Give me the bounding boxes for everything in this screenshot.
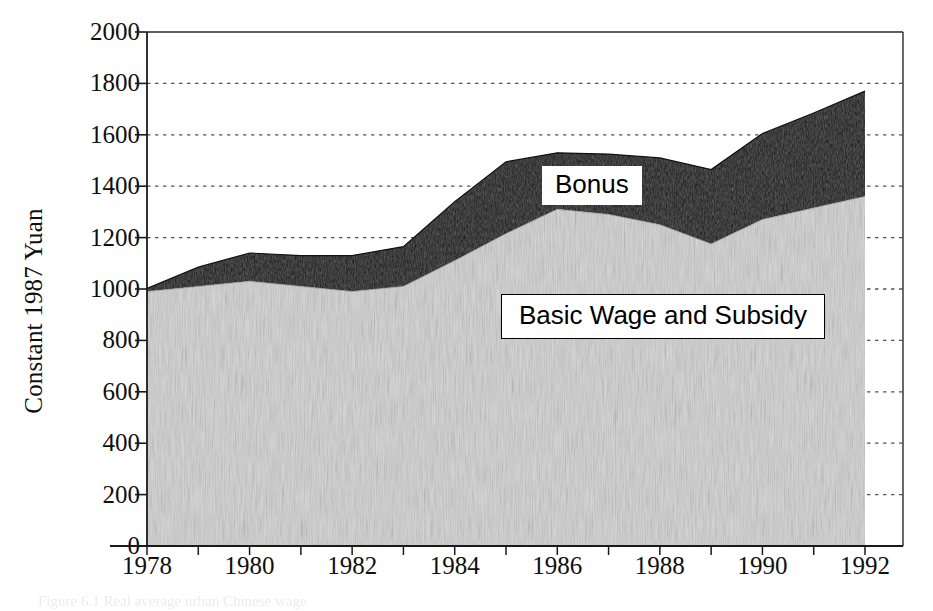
series-label-basic-wage: Basic Wage and Subsidy: [501, 294, 825, 339]
series-label-bonus: Bonus: [542, 166, 642, 205]
chart-figure: Constant 1987 Yuan 020040060080010001200…: [0, 0, 933, 611]
figure-caption-remnant: Figure 6.1 Real average urban Chinese wa…: [38, 593, 307, 610]
area-series-basic-wage: [147, 196, 865, 546]
